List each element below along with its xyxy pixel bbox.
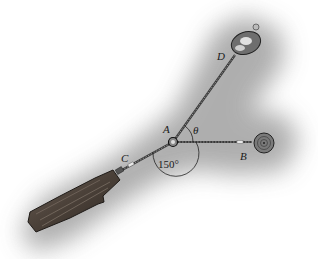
spool-b	[254, 133, 274, 153]
label-angle-150: 150°	[158, 159, 179, 170]
label-a: A	[163, 124, 170, 135]
ring-a	[169, 138, 178, 147]
label-b: B	[240, 151, 247, 162]
label-d: D	[217, 51, 225, 62]
cable-ab	[173, 141, 252, 144]
label-theta: θ	[193, 125, 198, 136]
equilibrium-figure	[0, 0, 318, 259]
label-c: C	[121, 153, 128, 164]
